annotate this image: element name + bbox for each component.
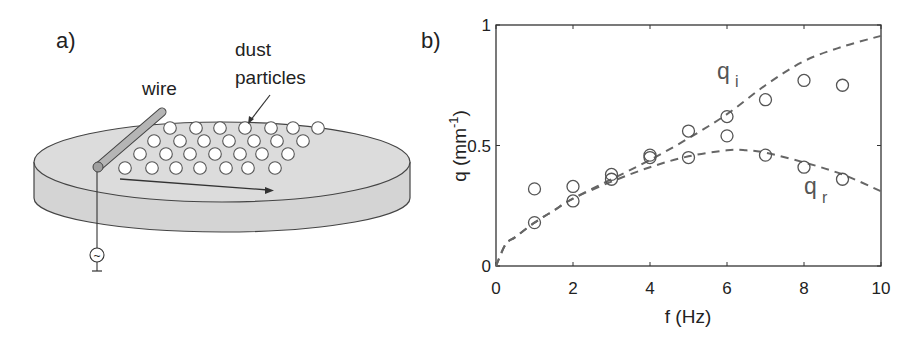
- dust-annotation-line1: dust: [235, 39, 272, 60]
- data-point-qi: [837, 79, 849, 91]
- data-point-qr: [837, 173, 849, 185]
- data-point-qr: [721, 130, 733, 142]
- svg-text:r: r: [822, 189, 828, 206]
- dust-particle: [170, 162, 183, 175]
- x-tick-label: 6: [722, 279, 731, 298]
- dust-particle: [297, 135, 310, 148]
- disk: [34, 122, 410, 232]
- data-point-qi: [683, 125, 695, 137]
- dust-particle: [194, 162, 207, 175]
- dust-particle: [119, 162, 132, 175]
- dust-particle: [269, 162, 282, 175]
- svg-text:q: q: [804, 173, 817, 199]
- plot-area: 024681000.51: [467, 16, 890, 298]
- panel-b-label: b): [421, 28, 441, 53]
- dust-particle: [209, 148, 222, 161]
- svg-text:i: i: [735, 73, 739, 90]
- dust-particle: [312, 122, 325, 135]
- dust-particle: [256, 148, 269, 161]
- figure: a) wire dust particles: [0, 0, 916, 344]
- x-tick-label: 4: [645, 279, 654, 298]
- x-tick-label: 10: [872, 279, 891, 298]
- dust-particle: [265, 122, 278, 135]
- y-tick-label: 0.5: [467, 137, 491, 156]
- data-point-qr: [798, 161, 810, 173]
- svg-text:~: ~: [93, 249, 100, 263]
- data-point-qr: [529, 183, 541, 195]
- data-point-qr: [760, 149, 772, 161]
- ac-source-icon: ~: [90, 248, 104, 263]
- y-tick-label: 1: [482, 16, 491, 35]
- data-point-qi: [798, 74, 810, 86]
- dust-particle: [220, 162, 233, 175]
- dust-particle: [282, 148, 295, 161]
- panel-b: b) q (mm-1) 024681000.51 f (Hz) q i q r: [421, 16, 890, 327]
- fit-curve: [496, 150, 881, 266]
- data-point-qi: [760, 94, 772, 106]
- dust-particle: [190, 122, 203, 135]
- dust-particle: [248, 135, 261, 148]
- label-qi: q i: [717, 58, 739, 90]
- dust-particle: [146, 162, 159, 175]
- y-tick-label: 0: [482, 257, 491, 276]
- dust-particle: [223, 135, 236, 148]
- wire-annotation: wire: [141, 78, 177, 99]
- dust-particle: [164, 122, 177, 135]
- panel-a-label: a): [56, 28, 76, 53]
- x-axis-title: f (Hz): [665, 306, 711, 327]
- axes-frame: [496, 25, 881, 266]
- dust-particle: [174, 135, 187, 148]
- svg-text:q: q: [717, 58, 730, 84]
- data-point-qi: [721, 111, 733, 123]
- x-tick-label: 0: [491, 279, 500, 298]
- dust-particle: [242, 162, 255, 175]
- dust-particle: [160, 148, 173, 161]
- dust-particle: [271, 135, 284, 148]
- dust-particle: [184, 148, 197, 161]
- x-tick-label: 2: [568, 279, 577, 298]
- x-tick-label: 8: [799, 279, 808, 298]
- label-qr: q r: [804, 173, 828, 206]
- ground-icon: [92, 262, 102, 271]
- dust-particle: [214, 122, 227, 135]
- panel-a: a) wire dust particles: [34, 28, 410, 271]
- dust-particle: [234, 148, 247, 161]
- dust-particle: [134, 148, 147, 161]
- dust-particle: [287, 122, 300, 135]
- dust-annotation-line2: particles: [235, 67, 306, 88]
- data-point-qr: [567, 180, 579, 192]
- dust-particle: [239, 122, 252, 135]
- dust-pointer-arrow: [248, 95, 270, 124]
- dust-particle: [148, 135, 161, 148]
- dust-particle: [198, 135, 211, 148]
